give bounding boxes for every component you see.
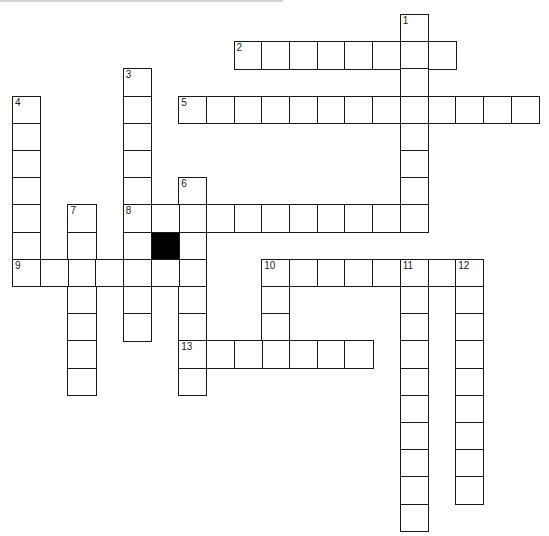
cell-letter-input[interactable] bbox=[124, 314, 151, 341]
crossword-cell[interactable] bbox=[206, 340, 235, 369]
cell-letter-input[interactable] bbox=[429, 260, 456, 287]
crossword-cell[interactable] bbox=[67, 259, 96, 288]
cell-letter-input[interactable] bbox=[290, 260, 317, 287]
cell-letter-input[interactable] bbox=[41, 260, 68, 287]
crossword-cell[interactable]: 8 bbox=[123, 204, 152, 233]
crossword-cell[interactable] bbox=[400, 123, 429, 152]
crossword-cell[interactable] bbox=[67, 368, 96, 397]
cell-letter-input[interactable] bbox=[124, 97, 151, 124]
cell-letter-input[interactable] bbox=[262, 341, 289, 368]
crossword-cell[interactable]: 4 bbox=[12, 96, 41, 125]
crossword-cell[interactable] bbox=[400, 313, 429, 342]
cell-letter-input[interactable] bbox=[207, 205, 234, 232]
cell-letter-input[interactable] bbox=[13, 124, 40, 151]
crossword-cell[interactable] bbox=[372, 96, 401, 125]
crossword-cell[interactable] bbox=[289, 96, 318, 125]
crossword-cell[interactable] bbox=[400, 286, 429, 315]
crossword-cell[interactable] bbox=[67, 232, 96, 261]
crossword-cell[interactable] bbox=[12, 123, 41, 152]
cell-letter-input[interactable] bbox=[401, 341, 428, 368]
cell-letter-input[interactable] bbox=[68, 369, 95, 396]
crossword-cell[interactable] bbox=[123, 177, 152, 206]
crossword-cell[interactable] bbox=[178, 313, 207, 342]
cell-letter-input[interactable] bbox=[318, 97, 345, 124]
crossword-cell[interactable] bbox=[400, 340, 429, 369]
crossword-cell[interactable] bbox=[344, 259, 373, 288]
crossword-cell[interactable] bbox=[12, 177, 41, 206]
cell-letter-input[interactable] bbox=[262, 314, 289, 341]
crossword-cell[interactable] bbox=[261, 286, 290, 315]
cell-letter-input[interactable] bbox=[345, 205, 372, 232]
cell-letter-input[interactable] bbox=[13, 178, 40, 205]
crossword-cell[interactable] bbox=[178, 204, 207, 233]
crossword-cell[interactable] bbox=[455, 422, 484, 451]
crossword-cell[interactable] bbox=[400, 96, 429, 125]
cell-letter-input[interactable] bbox=[318, 260, 345, 287]
crossword-cell[interactable] bbox=[234, 204, 263, 233]
cell-letter-input[interactable] bbox=[235, 341, 262, 368]
crossword-cell[interactable] bbox=[428, 96, 457, 125]
cell-letter-input[interactable] bbox=[401, 151, 428, 178]
crossword-cell[interactable] bbox=[289, 204, 318, 233]
cell-letter-input[interactable] bbox=[235, 42, 262, 69]
crossword-cell[interactable] bbox=[372, 41, 401, 70]
crossword-cell[interactable] bbox=[455, 340, 484, 369]
cell-letter-input[interactable] bbox=[262, 42, 289, 69]
cell-letter-input[interactable] bbox=[68, 314, 95, 341]
crossword-cell[interactable] bbox=[455, 476, 484, 505]
crossword-cell[interactable] bbox=[400, 504, 429, 533]
crossword-cell[interactable] bbox=[289, 259, 318, 288]
cell-letter-input[interactable] bbox=[345, 260, 372, 287]
cell-letter-input[interactable] bbox=[68, 287, 95, 314]
crossword-cell[interactable] bbox=[317, 41, 346, 70]
crossword-cell[interactable] bbox=[12, 232, 41, 261]
cell-letter-input[interactable] bbox=[179, 178, 206, 205]
crossword-cell[interactable] bbox=[261, 340, 290, 369]
crossword-cell[interactable] bbox=[67, 286, 96, 315]
crossword-cell[interactable] bbox=[344, 340, 373, 369]
crossword-cell[interactable] bbox=[344, 204, 373, 233]
cell-letter-input[interactable] bbox=[68, 233, 95, 260]
crossword-cell[interactable]: 7 bbox=[67, 204, 96, 233]
crossword-cell[interactable]: 6 bbox=[178, 177, 207, 206]
crossword-cell[interactable] bbox=[344, 41, 373, 70]
cell-letter-input[interactable] bbox=[179, 287, 206, 314]
crossword-cell[interactable] bbox=[400, 177, 429, 206]
cell-letter-input[interactable] bbox=[124, 124, 151, 151]
cell-letter-input[interactable] bbox=[207, 97, 234, 124]
crossword-cell[interactable] bbox=[317, 259, 346, 288]
cell-letter-input[interactable] bbox=[484, 97, 511, 124]
cell-letter-input[interactable] bbox=[13, 233, 40, 260]
cell-letter-input[interactable] bbox=[290, 42, 317, 69]
crossword-cell[interactable] bbox=[428, 259, 457, 288]
crossword-cell[interactable] bbox=[261, 204, 290, 233]
cell-letter-input[interactable] bbox=[401, 423, 428, 450]
cell-letter-input[interactable] bbox=[235, 97, 262, 124]
cell-letter-input[interactable] bbox=[456, 341, 483, 368]
crossword-cell[interactable] bbox=[40, 259, 69, 288]
crossword-cell[interactable]: 10 bbox=[261, 259, 290, 288]
crossword-cell[interactable] bbox=[317, 340, 346, 369]
cell-letter-input[interactable] bbox=[456, 477, 483, 504]
cell-letter-input[interactable] bbox=[152, 260, 179, 287]
crossword-cell[interactable] bbox=[123, 313, 152, 342]
cell-letter-input[interactable] bbox=[401, 42, 428, 69]
crossword-cell[interactable] bbox=[178, 232, 207, 261]
cell-letter-input[interactable] bbox=[401, 260, 428, 287]
crossword-cell[interactable]: 3 bbox=[123, 68, 152, 97]
crossword-cell[interactable] bbox=[428, 41, 457, 70]
crossword-cell[interactable] bbox=[455, 395, 484, 424]
crossword-cell[interactable]: 2 bbox=[234, 41, 263, 70]
cell-letter-input[interactable] bbox=[373, 42, 400, 69]
crossword-cell[interactable] bbox=[12, 150, 41, 179]
crossword-cell[interactable]: 5 bbox=[178, 96, 207, 125]
cell-letter-input[interactable] bbox=[179, 205, 206, 232]
cell-letter-input[interactable] bbox=[456, 314, 483, 341]
cell-letter-input[interactable] bbox=[124, 151, 151, 178]
crossword-cell[interactable] bbox=[400, 368, 429, 397]
cell-letter-input[interactable] bbox=[124, 205, 151, 232]
crossword-cell[interactable] bbox=[400, 395, 429, 424]
cell-letter-input[interactable] bbox=[401, 396, 428, 423]
cell-letter-input[interactable] bbox=[318, 205, 345, 232]
crossword-cell[interactable] bbox=[261, 41, 290, 70]
